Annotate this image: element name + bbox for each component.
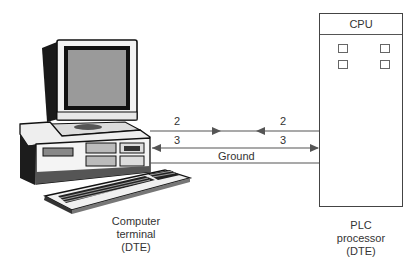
- caption-line: Computer: [96, 215, 176, 228]
- plc-processor-box: CPU: [319, 13, 403, 207]
- caption-line: terminal: [96, 228, 176, 241]
- cpu-header: CPU: [320, 14, 402, 35]
- indicator-square: [380, 60, 390, 69]
- computer-terminal-icon: [20, 40, 190, 214]
- computer-terminal-caption: Computer terminal (DTE): [96, 215, 176, 254]
- line-3-right-label: 3: [280, 135, 286, 146]
- line-3-left-label: 3: [174, 135, 180, 146]
- caption-line: processor: [321, 232, 401, 245]
- caption-line: (DTE): [96, 241, 176, 254]
- plc-processor-caption: PLC processor (DTE): [321, 219, 401, 258]
- caption-line: (DTE): [321, 245, 401, 258]
- line-2-left-label: 2: [174, 116, 180, 127]
- line-2-right-label: 2: [280, 116, 286, 127]
- indicator-square: [380, 44, 390, 53]
- indicator-square: [338, 60, 348, 69]
- indicator-square: [338, 44, 348, 53]
- ground-label: Ground: [218, 151, 255, 162]
- caption-line: PLC: [321, 219, 401, 232]
